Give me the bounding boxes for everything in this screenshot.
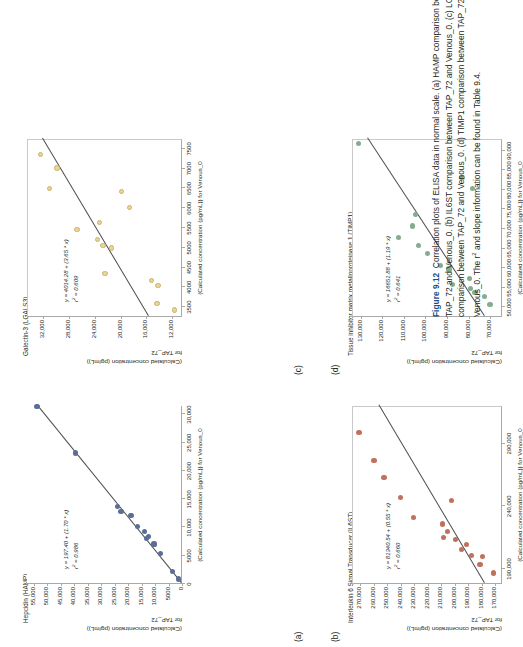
y-tick-label: 190,000	[464, 587, 470, 631]
data-point	[487, 302, 492, 307]
x-tick-mark	[182, 583, 185, 584]
data-point	[119, 189, 124, 194]
y-axis-title-line2-d: for TAP_72	[471, 350, 502, 357]
x-tick-mark	[502, 248, 505, 249]
y-tick-label: 10,000	[151, 587, 157, 631]
data-point	[74, 227, 79, 232]
y-tick-label: 0	[178, 587, 184, 631]
figure-caption-superscript: 2	[471, 252, 477, 255]
y-tick-label: 20,000	[124, 587, 130, 631]
data-point	[356, 430, 361, 435]
x-tick-mark	[182, 227, 185, 228]
x-axis-title-d: (Calculated concentration (pg/mL)) for V…	[516, 133, 523, 323]
y-tick-label: 210,000	[437, 587, 443, 631]
y-tick-label: 230,000	[410, 587, 416, 631]
data-point	[477, 562, 482, 567]
x-tick-mark	[502, 287, 505, 288]
x-axis-title-a: (Calculated concentration (pg/mL)) for V…	[196, 400, 203, 590]
data-point	[118, 509, 123, 514]
plot-area-b	[352, 406, 502, 584]
data-point	[142, 529, 147, 534]
data-point	[469, 553, 474, 558]
data-point	[445, 529, 450, 534]
data-point	[47, 186, 52, 191]
x-tick-label: 90,000	[506, 127, 512, 175]
y-tick-label: 30,000	[97, 587, 103, 631]
x-tick-mark	[502, 150, 505, 151]
y-tick-label: 25,000	[111, 587, 117, 631]
x-tick-mark	[182, 413, 185, 414]
x-tick-mark	[182, 498, 185, 499]
x-axis-title-b: (Calculated concentration (pg/mL)) for V…	[516, 400, 523, 590]
x-tick-label: 290,000	[506, 420, 512, 468]
y-tick-label: 70,000	[486, 320, 492, 364]
y-tick-label: 32,000	[39, 320, 45, 364]
data-point	[356, 141, 361, 146]
y-axis-title-line1-a: (Calculated concentration (pg/mL))	[87, 626, 182, 633]
y-tick-label: 200,000	[451, 587, 457, 631]
y-tick-label: 16,000	[142, 320, 148, 364]
y-tick-label: 240,000	[397, 587, 403, 631]
x-tick-label: 30,000	[186, 390, 192, 438]
equation-d: y = 16651.88 + (1.19 * x)r2 = 0.641	[384, 236, 402, 302]
data-point	[381, 475, 386, 480]
equation-b: y = 81340.54 + (0.55 * x)r2 = 0.660	[384, 503, 402, 569]
data-point	[176, 576, 181, 581]
y-tick-label: 55,000	[30, 587, 36, 631]
r-squared-line: r2 = 0.641	[392, 236, 402, 302]
x-tick-mark	[182, 306, 185, 307]
y-tick-label: 90,000	[443, 320, 449, 364]
data-point	[151, 541, 156, 546]
y-tick-label: 12,000	[168, 320, 174, 364]
data-point	[128, 513, 133, 518]
data-point	[480, 554, 485, 559]
data-point	[149, 278, 154, 283]
y-axis-title-line2-a: for TAP_72	[151, 617, 182, 624]
y-tick-label: 220,000	[424, 587, 430, 631]
y-axis-title-line1-b: (Calculated concentration (pg/mL))	[407, 626, 502, 633]
data-point	[97, 220, 102, 225]
data-point	[464, 542, 469, 547]
panel-letter-a: (a)	[293, 632, 303, 642]
y-tick-label: 130,000	[357, 320, 363, 364]
x-tick-mark	[182, 187, 185, 188]
y-tick-label: 50,000	[43, 587, 49, 631]
fit-line-a	[37, 404, 182, 583]
y-tick-label: 180,000	[478, 587, 484, 631]
x-tick-mark	[182, 470, 185, 471]
x-tick-label: 7500	[186, 125, 192, 173]
x-tick-mark	[502, 443, 505, 444]
x-tick-mark	[502, 505, 505, 506]
data-point	[172, 307, 177, 312]
r-squared-line: r2 = 0.660	[392, 503, 402, 569]
equation-line: y = 4014.28 + (3.65 * x)	[62, 239, 70, 302]
x-tick-mark	[182, 442, 185, 443]
y-tick-label: 15,000	[138, 587, 144, 631]
equation-line: y = 81340.54 + (0.55 * x)	[384, 503, 392, 569]
data-point	[54, 165, 59, 170]
data-point	[371, 458, 376, 463]
x-axis-title-c: (Calculated concentration (pg/mL)) for V…	[196, 133, 203, 323]
x-tick-mark	[182, 168, 185, 169]
data-point	[491, 570, 496, 575]
y-tick-label: 28,000	[65, 320, 71, 364]
x-tick-mark	[502, 189, 505, 190]
r-squared-line: r2 = 0.609	[70, 239, 80, 302]
x-tick-mark	[502, 267, 505, 268]
x-tick-mark	[182, 267, 185, 268]
data-point	[410, 223, 415, 228]
data-point	[146, 534, 151, 539]
y-tick-label: 40,000	[70, 587, 76, 631]
x-tick-label: 190,000	[506, 545, 512, 593]
y-tick-label: 110,000	[400, 320, 406, 364]
plot-area-c	[27, 139, 182, 317]
x-tick-mark	[182, 286, 185, 287]
data-point	[398, 495, 403, 500]
y-tick-label: 35,000	[84, 587, 90, 631]
data-point	[38, 152, 43, 157]
x-tick-mark	[502, 169, 505, 170]
fit-line-c	[42, 137, 149, 316]
y-tick-label: 20,000	[117, 320, 123, 364]
data-point	[413, 212, 418, 217]
data-point	[158, 551, 163, 556]
